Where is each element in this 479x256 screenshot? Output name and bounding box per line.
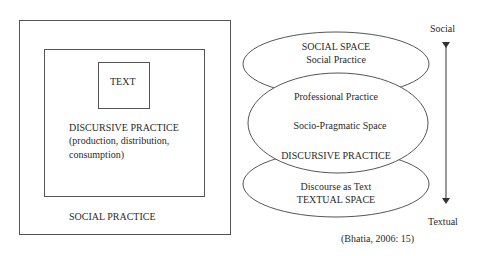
- axis-bottom-label: Textual: [428, 216, 458, 228]
- discourse-as-text-label: Discourse as Text: [286, 181, 386, 193]
- professional-practice-label: Professional Practice: [276, 91, 396, 103]
- textual-space-label: TEXTUAL SPACE: [286, 194, 386, 206]
- social-space-label: SOCIAL SPACE: [286, 41, 386, 53]
- social-practice-ellipse-label: Social Practice: [286, 54, 386, 66]
- socio-pragmatic-space-label: Socio-Pragmatic Space: [280, 120, 400, 132]
- axis-top-label: Social: [430, 23, 455, 35]
- ellipses-graphic: [0, 0, 479, 256]
- discursive-practice-ellipse-label: DISCURSIVE PRACTICE: [271, 150, 401, 162]
- citation: (Bhatia, 2006: 15): [341, 233, 414, 245]
